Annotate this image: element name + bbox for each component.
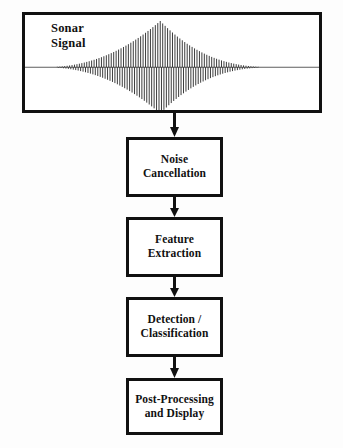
stage-post-processing-display[interactable]: Post-Processing and Display — [126, 378, 223, 435]
arrow-signal-to-noise-icon — [170, 113, 179, 137]
stage-feature-extraction[interactable]: Feature Extraction — [126, 217, 223, 277]
stage-label-detection-classification: Detection / Classification — [141, 313, 209, 341]
diagram-canvas: Sonar Signal Noise Cancellation Feature … — [0, 0, 343, 448]
sonar-signal-panel: Sonar Signal — [22, 12, 322, 113]
stage-label-feature-extraction: Feature Extraction — [148, 233, 201, 261]
sonar-signal-label: Sonar Signal — [51, 21, 86, 51]
stage-label-post-processing-display: Post-Processing and Display — [135, 393, 214, 421]
stage-detection-classification[interactable]: Detection / Classification — [126, 297, 223, 357]
arrow-feature-to-detection-icon — [170, 277, 179, 297]
stage-noise-cancellation[interactable]: Noise Cancellation — [126, 137, 223, 197]
arrow-noise-to-feature-icon — [170, 197, 179, 217]
stage-label-noise-cancellation: Noise Cancellation — [143, 153, 206, 181]
arrow-detection-to-post-icon — [170, 357, 179, 378]
